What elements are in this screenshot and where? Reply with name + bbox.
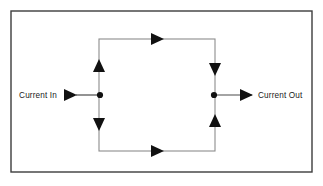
current-in-label: Current In	[19, 91, 57, 100]
diagram-canvas: Current In Current Out	[0, 0, 323, 186]
output-junction-node	[211, 92, 217, 98]
circuit-diagram-svg: Current In Current Out	[0, 0, 323, 186]
current-out-label: Current Out	[258, 91, 303, 100]
input-junction-node	[97, 92, 103, 98]
